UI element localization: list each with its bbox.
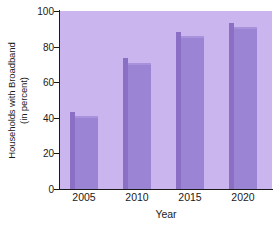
bar-2010-shading xyxy=(123,58,128,189)
x-tick-label-2020: 2020 xyxy=(221,191,265,203)
bar-2015 xyxy=(176,36,204,189)
x-tick-label-2005: 2005 xyxy=(62,191,106,203)
x-axis-line xyxy=(59,189,273,190)
y-tick-label-60: 60 xyxy=(28,77,54,88)
y-axis-title-line-2: (in percent) xyxy=(17,42,29,158)
y-tick-label-80: 80 xyxy=(28,41,54,52)
broadband-bar-chart: Households with Broadband (in percent) 1… xyxy=(0,0,280,231)
bar-2005 xyxy=(70,116,98,189)
bar-2005-shading xyxy=(70,112,75,189)
y-tick-label-0: 0 xyxy=(28,184,54,195)
x-axis-tick-labels: 2005 2010 2015 2020 xyxy=(60,191,272,207)
x-tick-label-2015: 2015 xyxy=(168,191,212,203)
plot-area xyxy=(60,11,272,189)
y-axis-title-line-1: Households with Broadband xyxy=(6,42,18,158)
y-tick-label-100: 100 xyxy=(28,6,54,17)
x-axis-title: Year xyxy=(60,208,272,220)
x-tick-label-2010: 2010 xyxy=(115,191,159,203)
bar-2015-shading xyxy=(176,32,181,189)
bar-2010 xyxy=(123,63,151,189)
y-axis-tick-labels: 100 80 60 40 20 0 xyxy=(28,0,54,231)
y-tick-label-40: 40 xyxy=(28,112,54,123)
y-tick-label-20: 20 xyxy=(28,148,54,159)
bar-2020-shading xyxy=(229,23,234,189)
bar-2020 xyxy=(229,27,257,189)
